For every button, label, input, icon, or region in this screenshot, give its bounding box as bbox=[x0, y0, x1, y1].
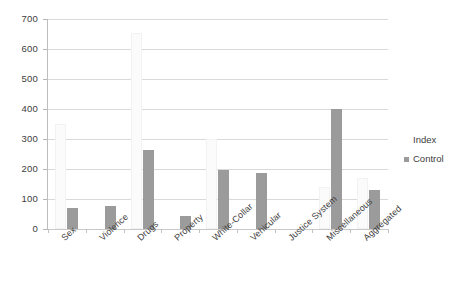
bar-group bbox=[275, 19, 313, 229]
y-tick-label: 200 bbox=[0, 164, 38, 174]
x-tick-mark bbox=[161, 229, 162, 233]
x-tick-mark bbox=[275, 229, 276, 233]
plot-area bbox=[48, 19, 388, 229]
bar bbox=[206, 139, 217, 229]
y-tick-mark bbox=[43, 229, 47, 230]
x-tick-mark bbox=[86, 229, 87, 233]
y-tick-label: 0 bbox=[0, 224, 38, 234]
y-tick-mark bbox=[43, 199, 47, 200]
x-tick-mark bbox=[237, 229, 238, 233]
legend-entry[interactable]: Control bbox=[404, 154, 468, 164]
y-tick-label: 600 bbox=[0, 44, 38, 54]
legend-swatch-icon bbox=[404, 157, 409, 162]
legend-title: Index bbox=[413, 134, 468, 145]
x-tick-mark bbox=[48, 229, 49, 233]
y-tick-label: 700 bbox=[0, 14, 38, 24]
bar bbox=[55, 124, 66, 229]
y-tick-mark bbox=[43, 169, 47, 170]
bar-group bbox=[199, 19, 237, 229]
y-tick-mark bbox=[43, 79, 47, 80]
x-tick-mark bbox=[350, 229, 351, 233]
y-tick-mark bbox=[43, 139, 47, 140]
legend: Index Control bbox=[404, 134, 468, 164]
bar bbox=[331, 109, 342, 229]
bar-group bbox=[48, 19, 86, 229]
x-tick-mark bbox=[312, 229, 313, 233]
y-tick-label: 300 bbox=[0, 134, 38, 144]
y-tick-label: 500 bbox=[0, 74, 38, 84]
y-tick-label: 100 bbox=[0, 194, 38, 204]
bar-chart: 0100200300400500600700 SexViolenceDrugsP… bbox=[0, 0, 470, 303]
legend-label: Control bbox=[413, 154, 444, 164]
bar-group bbox=[237, 19, 275, 229]
bar bbox=[131, 33, 142, 230]
y-tick-mark bbox=[43, 109, 47, 110]
x-tick-mark bbox=[388, 229, 389, 233]
x-tick-mark bbox=[124, 229, 125, 233]
x-tick-mark bbox=[199, 229, 200, 233]
bar-group bbox=[161, 19, 199, 229]
bar-group bbox=[86, 19, 124, 229]
legend-entry-list: Control bbox=[404, 154, 468, 164]
bar bbox=[143, 150, 154, 230]
y-tick-label: 400 bbox=[0, 104, 38, 114]
y-tick-mark bbox=[43, 19, 47, 20]
y-tick-mark bbox=[43, 49, 47, 50]
bar-group bbox=[124, 19, 162, 229]
